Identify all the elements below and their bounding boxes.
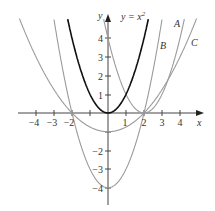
x-tick-label: 2 <box>142 117 147 128</box>
y-tick-label: −4 <box>92 183 103 194</box>
x-tick-label: −2 <box>64 117 75 128</box>
x-tick-label: 1 <box>123 117 128 128</box>
main-curve-label: y = x2 <box>120 10 146 22</box>
curve-a-label: A <box>173 18 181 29</box>
x-axis-arrow-icon <box>196 110 204 116</box>
y-axis-arrow-icon <box>105 14 111 22</box>
x-tick-label: −4 <box>29 117 40 128</box>
curve-a <box>104 19 185 113</box>
x-tick-label: −3 <box>47 117 58 128</box>
y-tick-label: 2 <box>98 71 103 82</box>
parabola-chart: −4 −3 −2 1 2 3 4 4 3 2 1 −2 −3 −4 x y y … <box>0 0 215 211</box>
x-axis-label: x <box>196 117 202 128</box>
y-tick-label: 3 <box>98 52 103 63</box>
x-tick-label: 3 <box>160 117 165 128</box>
y-axis-label: y <box>97 10 103 21</box>
x-tick-label: 4 <box>178 117 183 128</box>
y-tick-label: 1 <box>98 90 103 101</box>
y-tick-label: −2 <box>92 146 103 157</box>
curve-b-label: B <box>160 40 166 51</box>
y-tick-label: 4 <box>98 33 103 44</box>
y-tick-label: −3 <box>92 164 103 175</box>
curve-c-label: C <box>191 37 198 48</box>
